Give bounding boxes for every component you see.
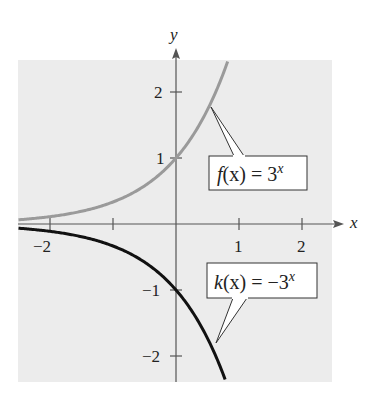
y-tick-label-neg1: −1 — [142, 281, 160, 300]
y-tick-label-1: 1 — [156, 149, 165, 168]
k-label: k(x) = −3x — [214, 269, 296, 294]
y-tick-label-neg2: −2 — [142, 347, 160, 366]
y-tick-label-2: 2 — [154, 83, 163, 102]
x-tick-label-neg2: −2 — [33, 237, 51, 256]
x-tick-label-1: 1 — [234, 237, 243, 256]
f-label: f(x) = 3x — [217, 161, 284, 186]
y-axis-label: y — [168, 25, 178, 44]
plot-background — [18, 60, 332, 382]
exponential-chart: x y −2 1 2 2 1 −1 −2 f(x) = 3x k(x) = −3… — [0, 0, 378, 403]
x-tick-label-2: 2 — [297, 237, 306, 256]
x-axis-label: x — [349, 213, 358, 232]
